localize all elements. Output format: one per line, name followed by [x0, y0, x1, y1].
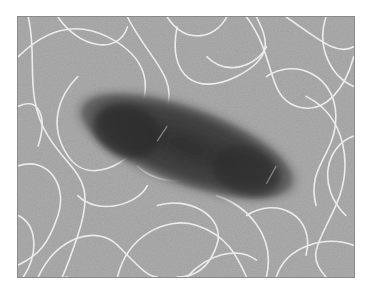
micrograph-svg	[18, 17, 354, 277]
micrograph-image	[17, 16, 355, 278]
